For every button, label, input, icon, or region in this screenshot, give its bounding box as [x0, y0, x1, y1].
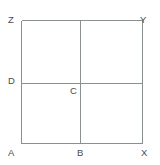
vertex-label-z: Z — [8, 15, 14, 25]
vertex-label-x: X — [141, 148, 147, 158]
vertex-label-a: A — [8, 148, 14, 158]
geometry-figure: Z Y D C A B X — [0, 0, 160, 165]
vertex-label-d: D — [8, 76, 15, 86]
vertex-label-b: B — [77, 148, 83, 158]
vertex-label-c: C — [70, 86, 77, 96]
vertex-label-y: Y — [140, 15, 146, 25]
figure-canvas — [0, 0, 160, 165]
